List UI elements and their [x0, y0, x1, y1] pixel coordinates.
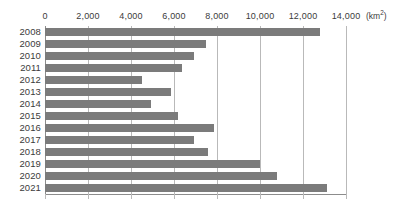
x-axis-line: [45, 194, 346, 195]
category-label-2009: 2009: [19, 38, 41, 49]
bar-chart: 02,0004,0006,0008,00010,00012,00014,000(…: [0, 0, 398, 211]
bar-2016: [45, 124, 214, 132]
category-label-2020: 2020: [19, 170, 41, 181]
x-tick-label-14000: 14,000: [332, 11, 361, 21]
x-axis-unit-label: (km2): [366, 11, 387, 21]
chart-row: 2016: [45, 124, 346, 132]
category-label-2015: 2015: [19, 110, 41, 121]
bar-2021: [45, 184, 327, 192]
x-tick-mark-10000: [260, 194, 261, 199]
x-tick-mark-0: [45, 194, 46, 199]
x-tick-label-6000: 6,000: [162, 11, 186, 21]
chart-row: 2010: [45, 52, 346, 60]
chart-row: 2018: [45, 148, 346, 156]
plot-area: 2008200920102011201220132014201520162017…: [45, 26, 346, 194]
chart-row: 2017: [45, 136, 346, 144]
chart-row: 2014: [45, 100, 346, 108]
x-tick-mark-6000: [174, 194, 175, 199]
x-tick-mark-8000: [217, 194, 218, 199]
bar-2009: [45, 40, 206, 48]
bar-2008: [45, 28, 320, 36]
chart-row: 2011: [45, 64, 346, 72]
bar-2011: [45, 64, 182, 72]
x-tick-label-12000: 12,000: [289, 11, 318, 21]
x-tick-mark-2000: [88, 194, 89, 199]
x-tick-label-0: 0: [42, 11, 47, 21]
x-tick-mark-12000: [303, 194, 304, 199]
bar-2013: [45, 88, 171, 96]
x-tick-mark-4000: [131, 194, 132, 199]
category-label-2008: 2008: [19, 26, 41, 37]
bar-2010: [45, 52, 194, 60]
category-label-2018: 2018: [19, 146, 41, 157]
category-label-2014: 2014: [19, 98, 41, 109]
chart-row: 2013: [45, 88, 346, 96]
bar-2017: [45, 136, 194, 144]
x-tick-mark-14000: [346, 194, 347, 199]
bar-2012: [45, 76, 142, 84]
category-label-2013: 2013: [19, 86, 41, 97]
chart-row: 2020: [45, 172, 346, 180]
category-label-2019: 2019: [19, 158, 41, 169]
chart-row: 2012: [45, 76, 346, 84]
category-label-2010: 2010: [19, 50, 41, 61]
category-label-2012: 2012: [19, 74, 41, 85]
chart-row: 2008: [45, 28, 346, 36]
x-tick-label-10000: 10,000: [246, 11, 275, 21]
category-label-2016: 2016: [19, 122, 41, 133]
gridline-14000: [346, 26, 347, 194]
chart-row: 2015: [45, 112, 346, 120]
bar-2015: [45, 112, 178, 120]
category-label-2017: 2017: [19, 134, 41, 145]
bar-2014: [45, 100, 151, 108]
category-label-2011: 2011: [20, 62, 41, 73]
x-tick-label-2000: 2,000: [76, 11, 100, 21]
x-axis-tick-labels: 02,0004,0006,0008,00010,00012,00014,000(…: [0, 11, 398, 25]
x-tick-label-4000: 4,000: [119, 11, 143, 21]
bar-2018: [45, 148, 208, 156]
x-tick-label-8000: 8,000: [205, 11, 229, 21]
bar-2019: [45, 160, 260, 168]
chart-row: 2009: [45, 40, 346, 48]
chart-row: 2021: [45, 184, 346, 192]
category-label-2021: 2021: [19, 182, 41, 193]
chart-row: 2019: [45, 160, 346, 168]
bar-2020: [45, 172, 277, 180]
